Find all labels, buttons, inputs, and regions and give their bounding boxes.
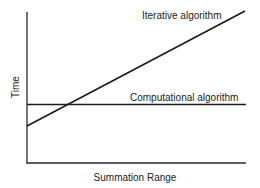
x-axis-label: Summation Range xyxy=(94,172,177,183)
complexity-comparison-chart: Iterative algorithm Computational algori… xyxy=(0,0,260,188)
iterative-algorithm-label: Iterative algorithm xyxy=(142,10,221,21)
computational-algorithm-label: Computational algorithm xyxy=(130,92,238,103)
y-axis-label: Time xyxy=(10,76,21,98)
iterative-algorithm-line xyxy=(27,11,245,126)
